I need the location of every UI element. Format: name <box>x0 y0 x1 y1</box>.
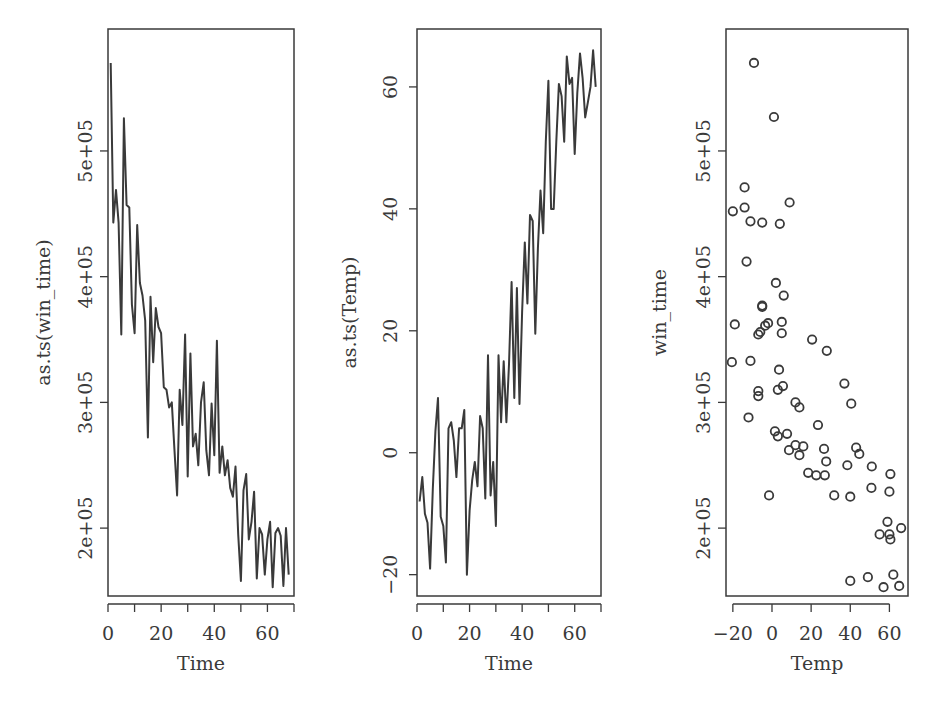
data-point <box>742 257 750 265</box>
x-tick-label: 0 <box>766 622 778 644</box>
y-axis-label: as.ts(win_time) <box>32 239 55 385</box>
x-axis: 0204060Time <box>102 604 294 674</box>
data-point <box>740 183 748 191</box>
data-point <box>772 279 780 287</box>
y-tick-label: 60 <box>379 75 401 99</box>
data-point <box>740 203 748 211</box>
y-axis-label: as.ts(Temp) <box>338 257 360 369</box>
series-line <box>420 50 596 574</box>
data-point <box>754 330 762 338</box>
x-axis-label: Time <box>177 652 225 674</box>
y-axis: −200204060as.ts(Temp) <box>338 75 417 595</box>
panel-temp-series: 0204060Time−200204060as.ts(Temp) <box>338 29 601 674</box>
x-tick-label: 0 <box>102 622 114 644</box>
data-point <box>728 358 736 366</box>
data-point <box>812 471 820 479</box>
y-tick-label: 3e+05 <box>692 371 714 434</box>
data-point <box>843 461 851 469</box>
data-point <box>886 470 894 478</box>
data-point <box>746 217 754 225</box>
data-point <box>821 471 829 479</box>
y-axis-label: win_time <box>648 269 671 356</box>
data-point <box>868 462 876 470</box>
data-point <box>758 218 766 226</box>
data-point <box>775 366 783 374</box>
data-point <box>808 335 816 343</box>
data-point <box>883 518 891 526</box>
y-tick-label: 4e+05 <box>692 245 714 308</box>
data-point <box>879 583 887 591</box>
data-point <box>776 220 784 228</box>
data-point <box>765 491 773 499</box>
data-point <box>886 535 894 543</box>
y-tick-label: 0 <box>379 447 401 459</box>
y-tick-label: −20 <box>379 555 401 595</box>
x-axis: 0204060Time <box>411 604 601 674</box>
x-tick-label: 40 <box>838 622 862 644</box>
data-point <box>804 469 812 477</box>
data-point <box>846 577 854 585</box>
x-tick-label: 60 <box>255 622 279 644</box>
data-point <box>864 573 872 581</box>
data-point <box>846 492 854 500</box>
y-tick-label: 2e+05 <box>692 496 714 559</box>
data-point <box>867 484 875 492</box>
y-tick-label: 3e+05 <box>74 371 96 434</box>
y-tick-label: 5e+05 <box>74 119 96 182</box>
data-point <box>820 445 828 453</box>
data-point <box>744 413 752 421</box>
data-point <box>785 198 793 206</box>
data-point <box>770 113 778 121</box>
data-point <box>875 530 883 538</box>
x-axis-label: Time <box>485 652 533 674</box>
series-line <box>111 63 289 587</box>
y-tick-label: 2e+05 <box>74 496 96 559</box>
data-point <box>897 524 905 532</box>
data-point <box>778 318 786 326</box>
x-axis-label: Temp <box>791 652 844 674</box>
data-point <box>889 570 897 578</box>
y-tick-label: 4e+05 <box>74 245 96 308</box>
x-tick-label: 0 <box>411 622 423 644</box>
x-axis: −200204060Temp <box>713 604 902 674</box>
y-tick-label: 20 <box>379 319 401 343</box>
y-tick-label: 40 <box>379 197 401 221</box>
data-point <box>780 291 788 299</box>
data-point <box>778 329 786 337</box>
x-tick-label: 60 <box>877 622 901 644</box>
panel-win-time-series: 0204060Time2e+053e+054e+055e+05as.ts(win… <box>32 29 294 674</box>
figure: 0204060Time2e+053e+054e+055e+05as.ts(win… <box>0 0 937 703</box>
x-tick-label: 40 <box>202 622 226 644</box>
data-point <box>822 457 830 465</box>
y-axis: 2e+053e+054e+055e+05win_time <box>648 119 726 560</box>
data-point <box>746 357 754 365</box>
x-tick-label: 60 <box>563 622 587 644</box>
x-tick-label: 20 <box>149 622 173 644</box>
y-axis: 2e+053e+054e+055e+05as.ts(win_time) <box>32 119 108 560</box>
data-point <box>885 487 893 495</box>
x-tick-label: 40 <box>510 622 534 644</box>
data-point <box>847 399 855 407</box>
data-point <box>830 491 838 499</box>
data-point <box>750 59 758 67</box>
data-point <box>795 451 803 459</box>
data-point <box>823 347 831 355</box>
x-tick-label: 20 <box>799 622 823 644</box>
data-point <box>840 379 848 387</box>
y-tick-label: 5e+05 <box>692 119 714 182</box>
data-point <box>731 320 739 328</box>
data-point <box>783 430 791 438</box>
x-tick-label: 20 <box>457 622 481 644</box>
scatter-points <box>728 59 906 592</box>
data-point <box>895 582 903 590</box>
plot-frame <box>726 29 908 596</box>
x-tick-label: −20 <box>713 622 753 644</box>
data-point <box>729 207 737 215</box>
panel-scatter-temp-vs-win-time: −200204060Temp2e+053e+054e+055e+05win_ti… <box>648 29 908 674</box>
data-point <box>814 421 822 429</box>
